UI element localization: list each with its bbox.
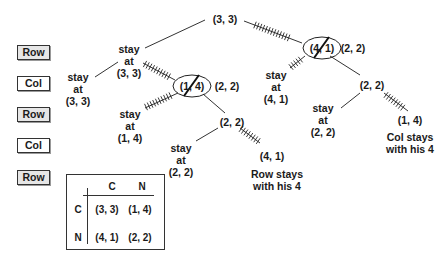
stay-22-left-line2: at — [169, 154, 194, 166]
turn-label-col-2: Col — [17, 138, 50, 153]
stay-41-line2: at — [264, 81, 289, 93]
turn-label-row-2: Row — [17, 107, 50, 122]
stay-22-right-line3: (2, 2) — [311, 126, 336, 138]
left-node-line1: stay — [117, 43, 142, 55]
stay-41-line1: stay — [264, 69, 289, 81]
stay-22-right-line1: stay — [311, 102, 336, 114]
matrix-row-divider — [87, 188, 88, 244]
matrix-cell-cc: (3, 3) — [95, 204, 118, 216]
left-node-line2: at — [117, 55, 142, 67]
struck-node-left-value: (1, 4) — [180, 80, 205, 92]
stay-22-left-node: stay at (2, 2) — [169, 142, 194, 178]
leaf-41: (4, 1) — [260, 150, 285, 162]
matrix-row-header-c: C — [74, 204, 81, 216]
matrix-row-header-n: N — [74, 232, 81, 244]
backward-induction-diagram: Row Col Row Col Row (3, 3) stay at (3, 3… — [0, 0, 444, 269]
matrix-cell-nn: (2, 2) — [128, 232, 151, 244]
matrix-header-divider — [83, 195, 154, 196]
left-node-line3: (3, 3) — [117, 67, 142, 79]
col-note-line2: with his 4 — [386, 143, 434, 155]
right-22-node: (2, 2) — [360, 79, 385, 91]
left-leaf-line2: at — [66, 83, 91, 95]
left-leaf: stay at (3, 3) — [66, 71, 91, 107]
stay-14-line2: at — [118, 120, 143, 132]
turn-label-col-1: Col — [17, 76, 50, 91]
stay-14-node: stay at (1, 4) — [118, 108, 143, 144]
stay-22-right-node: stay at (2, 2) — [311, 102, 336, 138]
stay-22-left-line3: (2, 2) — [169, 166, 194, 178]
turn-label-row-1: Row — [17, 45, 50, 60]
struck-node-right-replacement: (2, 2) — [341, 42, 366, 54]
left-node: stay at (3, 3) — [117, 43, 142, 79]
stay-14-line1: stay — [118, 108, 143, 120]
mid-22-node: (2, 2) — [220, 116, 245, 128]
row-note: Row stays with his 4 — [251, 168, 303, 192]
stay-14-line3: (1, 4) — [118, 132, 143, 144]
matrix-col-header-c: C — [108, 181, 115, 193]
leaf-14: (1, 4) — [398, 114, 423, 126]
matrix-cell-cn: (1, 4) — [128, 204, 151, 216]
left-leaf-line3: (3, 3) — [66, 95, 91, 107]
stay-22-right-line2: at — [311, 114, 336, 126]
stay-22-left-line1: stay — [169, 142, 194, 154]
left-leaf-line1: stay — [66, 71, 91, 83]
root-node: (3, 3) — [213, 13, 238, 25]
matrix-cell-nc: (4, 1) — [95, 232, 118, 244]
stay-41-node: stay at (4, 1) — [264, 69, 289, 105]
payoff-matrix: C N C N (3, 3) (1, 4) (4, 1) (2, 2) — [66, 174, 165, 250]
stay-41-line3: (4, 1) — [264, 93, 289, 105]
row-note-line1: Row stays — [251, 168, 303, 180]
matrix-col-header-n: N — [138, 181, 145, 193]
col-note: Col stays with his 4 — [386, 131, 434, 155]
struck-node-right-value: (4, 1) — [310, 42, 335, 54]
struck-node-left-replacement: (2, 2) — [215, 80, 240, 92]
row-note-line2: with his 4 — [251, 180, 303, 192]
turn-label-row-3: Row — [17, 170, 50, 185]
col-note-line1: Col stays — [386, 131, 434, 143]
